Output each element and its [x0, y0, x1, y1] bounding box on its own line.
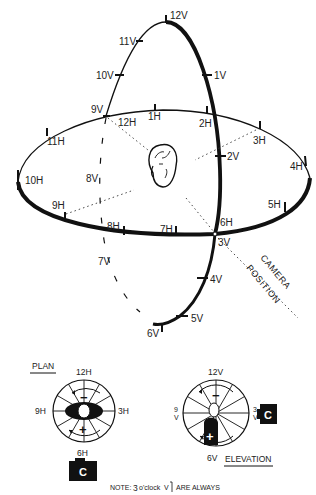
elevation-label-9: 9 — [174, 406, 178, 413]
label-5h: 5H — [268, 199, 281, 210]
label-3h: 3H — [253, 135, 266, 146]
note-suffix: ARE ALWAYS — [176, 484, 220, 491]
svg-text:C: C — [79, 466, 87, 478]
plan-label-6h: 6H — [77, 448, 88, 458]
label-4h: 4H — [290, 161, 303, 172]
note: NOTE: 3 o'clock V ARE ALWAYS — [110, 482, 220, 493]
elevation-label-9v: V — [174, 414, 179, 421]
label-9h: 9H — [52, 200, 65, 211]
head-subject-icon — [149, 144, 177, 187]
label-8h: 8H — [107, 221, 120, 232]
label-12h: 12H — [118, 117, 136, 128]
main-diagram: 12V 11V 10V 9V 1V 2V 3V 4V 5V 6V 7V 8V 1… — [18, 10, 310, 339]
label-10h: 10H — [25, 175, 43, 186]
note-prefix: NOTE: — [110, 484, 131, 491]
label-9v: 9V — [91, 104, 104, 115]
vertical-orbit-lower — [153, 234, 215, 325]
horizontal-ticks — [47, 104, 306, 235]
elevation-camera-icon: C — [257, 404, 277, 424]
plan-label-12h: 12H — [76, 367, 92, 377]
label-6v: 6V — [147, 328, 160, 339]
label-2h: 2H — [199, 118, 212, 129]
elevation-plus: + — [206, 429, 214, 444]
vertical-orbit-hidden — [100, 118, 140, 312]
note-oclock: o'clock — [139, 484, 161, 491]
label-1v: 1V — [214, 70, 227, 81]
label-11v: 11V — [119, 36, 136, 47]
vertical-ticks — [103, 15, 226, 332]
plan-view: PLAN 12H 9H 3H 6H − + C — [30, 361, 129, 481]
note-v: V — [164, 484, 169, 491]
elevation-minus: − — [212, 388, 220, 403]
elevation-label-6v: 6V — [207, 453, 218, 463]
label-4v: 4V — [210, 274, 223, 285]
elevation-title: ELEVATION — [225, 454, 271, 464]
label-6h: 6H — [220, 217, 233, 228]
plan-minus: − — [80, 390, 88, 405]
elevation-label-12v: 12V — [208, 367, 223, 377]
label-7v: 7V — [98, 256, 111, 267]
label-10v: 10V — [96, 70, 114, 81]
elevation-label-3: 3 — [253, 406, 257, 413]
plan-plus: + — [79, 422, 87, 437]
camera-angle-diagram: 12V 11V 10V 9V 1V 2V 3V 4V 5V 6V 7V 8V 1… — [0, 0, 316, 495]
plan-label-3h: 3H — [118, 406, 129, 416]
label-7h: 7H — [160, 224, 173, 235]
elevation-view: 12V 9 V 3 V 6V − + C ELEVATION — [174, 367, 277, 466]
label-5v: 5V — [191, 313, 204, 324]
label-11h: 11H — [47, 136, 65, 147]
plan-camera-icon: C — [69, 458, 97, 481]
label-8v: 8V — [86, 173, 99, 184]
plan-label-9h: 9H — [35, 406, 46, 416]
label-3v: 3V — [218, 237, 231, 248]
label-12v: 12V — [170, 10, 188, 21]
label-2v: 2V — [227, 151, 240, 162]
note-three: 3 — [133, 483, 138, 493]
vertical-orbit-front — [166, 22, 220, 234]
svg-text:C: C — [264, 409, 272, 421]
label-1h: 1H — [148, 111, 161, 122]
plan-title: PLAN — [32, 361, 54, 371]
